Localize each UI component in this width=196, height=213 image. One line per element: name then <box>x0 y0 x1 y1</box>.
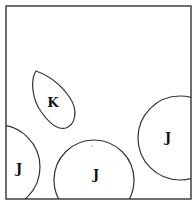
label-k: K <box>47 95 59 110</box>
dot-mark <box>91 145 92 146</box>
label-j-right: J <box>164 130 171 145</box>
label-j-left: J <box>15 161 22 176</box>
region-diagram: K J J J <box>0 0 196 213</box>
label-j-middle: J <box>92 167 99 182</box>
